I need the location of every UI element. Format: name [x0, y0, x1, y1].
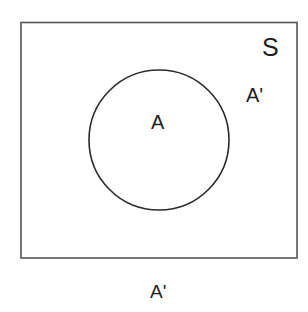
set-a-circle [89, 70, 229, 210]
complement-label-inside: A' [246, 85, 263, 105]
venn-diagram: S A A' A' [0, 0, 308, 312]
set-a-label: A [151, 112, 164, 132]
complement-label-below: A' [150, 282, 166, 301]
universal-set-rectangle [21, 23, 297, 259]
universal-set-label: S [262, 35, 279, 60]
